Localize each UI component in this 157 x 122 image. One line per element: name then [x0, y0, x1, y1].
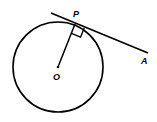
label-a: A	[140, 56, 148, 66]
center-point	[57, 66, 60, 69]
label-o: O	[53, 72, 60, 82]
label-p: P	[73, 9, 80, 19]
radius-op	[58, 24, 75, 67]
geometry-diagram: P O A	[0, 0, 157, 122]
